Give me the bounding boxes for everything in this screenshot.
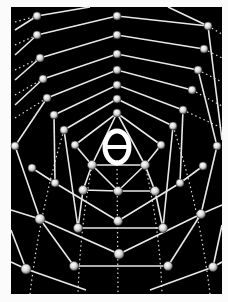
lattice-illustration	[0, 0, 228, 302]
illustration-frame	[0, 0, 228, 302]
